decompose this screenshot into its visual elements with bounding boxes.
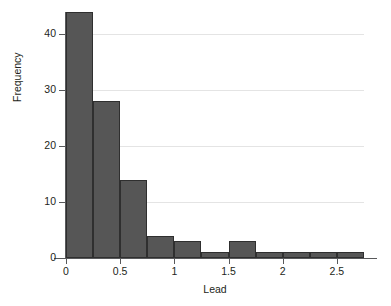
x-tick-mark-2	[283, 259, 284, 264]
histogram-bar	[174, 241, 201, 258]
x-axis-line	[54, 258, 377, 259]
y-tick-label-10: 10	[44, 196, 56, 207]
y-axis-title: Frequency	[11, 52, 23, 102]
y-tick-mark-10	[59, 202, 65, 203]
x-tick-mark-1	[174, 259, 175, 264]
x-tick-mark-2.5	[337, 259, 338, 264]
x-tick-mark-0	[66, 259, 67, 264]
x-tick-label-0.5: 0.5	[113, 266, 128, 277]
y-tick-mark-40	[59, 34, 65, 35]
plot-area	[66, 12, 364, 258]
y-axis-title-label: Frequency	[11, 52, 23, 102]
histogram-bar	[147, 236, 174, 258]
x-tick-mark-1.5	[229, 259, 230, 264]
y-tick-mark-30	[59, 90, 65, 91]
x-tick-label-2.5: 2.5	[330, 266, 345, 277]
x-tick-label-1: 1	[171, 266, 177, 277]
y-tick-label-20: 20	[44, 140, 56, 151]
x-tick-label-0: 0	[63, 266, 69, 277]
y-tick-mark-0	[59, 258, 65, 259]
x-axis-title-label: Lead	[203, 283, 226, 295]
y-tick-mark-20	[59, 146, 65, 147]
histogram-bar	[66, 12, 93, 258]
x-tick-label-1.5: 1.5	[221, 266, 236, 277]
histogram-bar	[120, 180, 147, 258]
y-axis-line	[65, 12, 66, 259]
x-tick-mark-0.5	[120, 259, 121, 264]
y-tick-label-30: 30	[44, 84, 56, 95]
histogram-bar	[229, 241, 256, 258]
y-tick-label-0: 0	[50, 252, 56, 263]
x-axis-title: Lead	[0, 283, 391, 295]
x-tick-label-2: 2	[280, 266, 286, 277]
histogram-bar	[93, 101, 120, 258]
histogram-figure: 010203040 00.511.522.5 Frequency Lead	[0, 0, 391, 306]
y-tick-label-40: 40	[44, 28, 56, 39]
